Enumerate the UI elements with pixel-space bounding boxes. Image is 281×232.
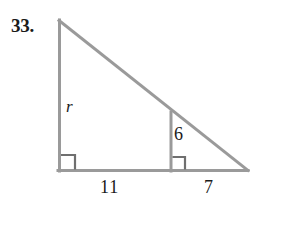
- base-right-segment-label: 7: [204, 178, 213, 196]
- exercise-number: 33.: [11, 16, 34, 35]
- base-left-segment-label: 11: [100, 178, 119, 196]
- interior-leg-label: 6: [174, 125, 183, 143]
- bottom-left-right-angle-icon: [61, 155, 75, 170]
- hypotenuse-line: [59, 21, 248, 171]
- left-leg-label: r: [66, 98, 73, 115]
- geometry-figure: 33. r 6 11 7: [0, 0, 281, 232]
- triangle-diagram-svg: [0, 0, 281, 232]
- right-angle-markers: [61, 155, 185, 170]
- interior-right-angle-icon: [173, 157, 186, 170]
- triangle-outline: [58, 20, 248, 171]
